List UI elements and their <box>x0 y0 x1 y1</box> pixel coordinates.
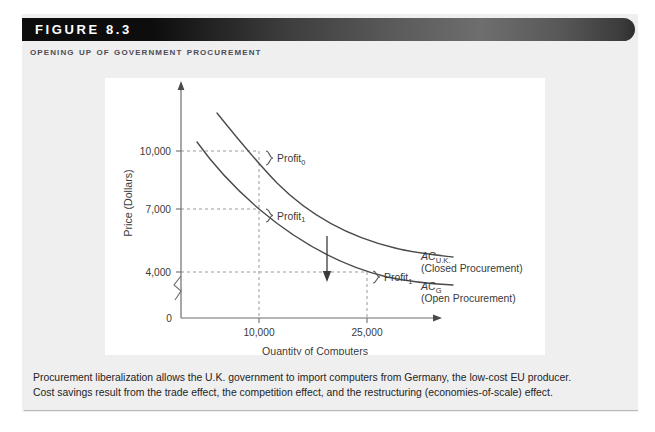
profit-0-text: Profit <box>277 153 301 164</box>
y-tick-label-7000: 7,000 <box>146 204 172 215</box>
profit-0-subscript: 0 <box>301 158 305 167</box>
y-tick-label-4000: 4,000 <box>146 267 172 278</box>
chart-svg: 10,000 7,000 4,000 0 10,000 25,000 Price… <box>105 78 545 355</box>
curve-note-ac-g: (Open Procurement) <box>421 293 516 304</box>
y-axis-title: Price (Dollars) <box>122 169 134 236</box>
dashed-guides <box>181 151 367 318</box>
y-tick-label-10000: 10,000 <box>140 146 171 157</box>
x-axis-arrowhead <box>433 315 442 322</box>
x-tick-label-10000: 10,000 <box>243 327 274 338</box>
axes <box>178 81 442 321</box>
caption-divider <box>24 410 638 411</box>
figure-title: Opening Up of Government Procurement <box>30 45 262 57</box>
x-axis-title: Quantity of Computers <box>262 345 368 355</box>
figure-caption-line-2: Cost savings result from the trade effec… <box>33 386 623 401</box>
y-axis-arrowhead <box>178 81 185 90</box>
profit-0-label: Profit0 <box>277 153 305 167</box>
y-tick-label-0: 0 <box>166 313 172 324</box>
profit-1-mid-subscript: 1 <box>301 215 305 224</box>
ac-g-main: AC <box>420 280 436 292</box>
profit-1-right-label: Profit1 <box>384 272 412 286</box>
profit-1-right-bracket <box>373 271 380 283</box>
profit-1-right-text: Profit <box>384 272 408 283</box>
curve-ac-g <box>197 142 453 285</box>
curve-ac-uk <box>217 113 453 257</box>
figure-container: FIGURE 8.3 Opening Up of Government Proc… <box>0 0 655 432</box>
profit-1-mid-label: Profit1 <box>277 211 305 225</box>
figure-caption-line-1: Procurement liberalization allows the U.… <box>33 371 623 386</box>
profit-1-right-subscript: 1 <box>408 277 412 286</box>
ac-uk-main: AC <box>420 250 436 262</box>
profit-0-bracket <box>266 151 273 165</box>
profit-1-mid-text: Profit <box>277 211 301 222</box>
figure-caption: Procurement liberalization allows the U.… <box>33 371 623 400</box>
y-axis-break-icon <box>174 276 181 300</box>
cost-reduction-arrow-head <box>323 271 331 282</box>
x-tick-label-25000: 25,000 <box>351 327 382 338</box>
figure-number-label: FIGURE 8.3 <box>35 22 132 37</box>
curve-note-ac-uk: (Closed Procurement) <box>421 263 523 274</box>
